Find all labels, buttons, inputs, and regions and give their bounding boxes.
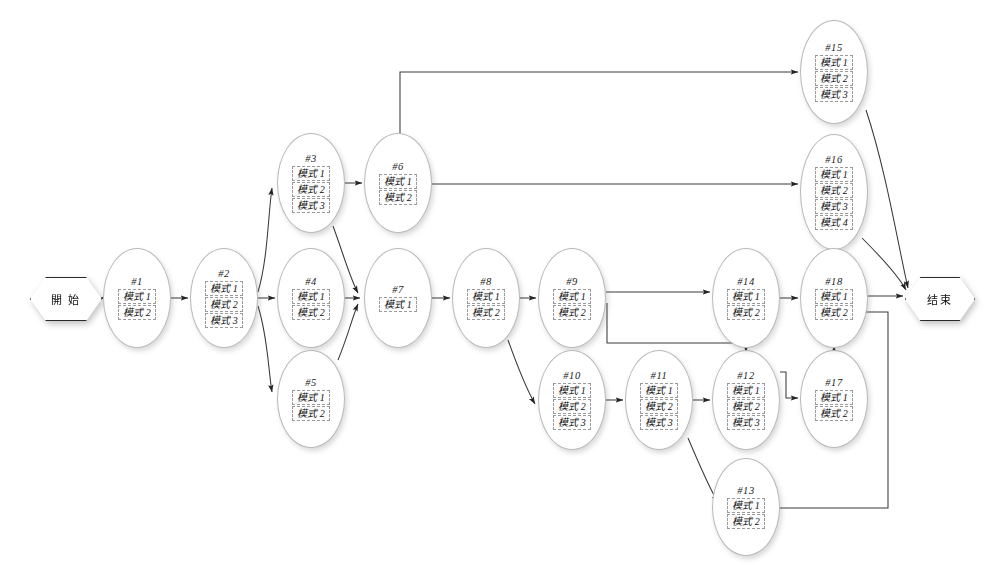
node-id-label: #9 <box>566 276 578 287</box>
mode-list: 模式 1模式 2 <box>118 289 156 320</box>
mode-item[interactable]: 模式 3 <box>205 313 243 328</box>
node-id-label: #2 <box>218 268 230 279</box>
mode-item[interactable]: 模式 1 <box>727 498 765 513</box>
process-node[interactable]: #12模式 1模式 2模式 3 <box>712 350 780 450</box>
process-node[interactable]: #4模式 1模式 2 <box>277 248 345 348</box>
mode-list: 模式 1模式 2模式 3模式 4 <box>815 167 853 230</box>
mode-item[interactable]: 模式 2 <box>467 305 505 320</box>
mode-list: 模式 1模式 2 <box>292 390 330 421</box>
end-terminator[interactable]: 结束 <box>905 277 975 321</box>
mode-item[interactable]: 模式 2 <box>815 305 853 320</box>
mode-item[interactable]: 模式 2 <box>205 297 243 312</box>
node-id-label: #15 <box>825 42 843 53</box>
mode-list: 模式 1模式 2模式 3 <box>553 383 591 430</box>
process-node[interactable]: #3模式 1模式 2模式 3 <box>277 133 345 233</box>
node-id-label: #7 <box>392 284 404 295</box>
mode-item[interactable]: 模式 1 <box>553 289 591 304</box>
process-node[interactable]: #7模式 1 <box>364 248 432 348</box>
process-node[interactable]: #15模式 1模式 2模式 3 <box>800 20 868 124</box>
process-node[interactable]: #18模式 1模式 2 <box>800 248 868 348</box>
node-id-label: #16 <box>825 154 843 165</box>
mode-item[interactable]: 模式 3 <box>640 415 678 430</box>
mode-item[interactable]: 模式 3 <box>815 199 853 214</box>
mode-item[interactable]: 模式 2 <box>815 183 853 198</box>
process-node[interactable]: #5模式 1模式 2 <box>277 350 345 448</box>
flowchart-canvas: 開 始 结束 #1模式 1模式 2#2模式 1模式 2模式 3#3模式 1模式 … <box>0 0 992 586</box>
mode-item[interactable]: 模式 2 <box>727 305 765 320</box>
mode-item[interactable]: 模式 1 <box>292 166 330 181</box>
node-id-label: #8 <box>480 276 492 287</box>
node-id-label: #12 <box>737 370 755 381</box>
node-id-label: #11 <box>651 370 668 381</box>
node-id-label: #4 <box>305 276 317 287</box>
node-id-label: #10 <box>563 370 581 381</box>
node-id-label: #14 <box>737 276 755 287</box>
mode-item[interactable]: 模式 1 <box>815 55 853 70</box>
mode-item[interactable]: 模式 2 <box>292 406 330 421</box>
mode-item[interactable]: 模式 1 <box>118 289 156 304</box>
mode-item[interactable]: 模式 1 <box>815 167 853 182</box>
mode-list: 模式 1模式 2 <box>379 174 417 205</box>
mode-list: 模式 1模式 2 <box>815 390 853 421</box>
node-id-label: #1 <box>131 276 143 287</box>
mode-list: 模式 1模式 2 <box>467 289 505 320</box>
process-node[interactable]: #9模式 1模式 2 <box>538 248 606 348</box>
process-node[interactable]: #13模式 1模式 2 <box>712 458 780 556</box>
mode-item[interactable]: 模式 1 <box>640 383 678 398</box>
mode-list: 模式 1模式 2 <box>727 498 765 529</box>
mode-list: 模式 1模式 2模式 3 <box>205 281 243 328</box>
mode-item[interactable]: 模式 1 <box>205 281 243 296</box>
mode-list: 模式 1模式 2 <box>292 289 330 320</box>
mode-item[interactable]: 模式 2 <box>727 399 765 414</box>
mode-item[interactable]: 模式 3 <box>553 415 591 430</box>
mode-item[interactable]: 模式 2 <box>553 399 591 414</box>
process-node[interactable]: #10模式 1模式 2模式 3 <box>538 350 606 450</box>
mode-item[interactable]: 模式 1 <box>815 390 853 405</box>
mode-list: 模式 1模式 2模式 3 <box>815 55 853 102</box>
mode-item[interactable]: 模式 1 <box>553 383 591 398</box>
process-node[interactable]: #8模式 1模式 2 <box>452 248 520 348</box>
mode-list: 模式 1模式 2模式 3 <box>727 383 765 430</box>
start-terminator[interactable]: 開 始 <box>30 277 102 321</box>
mode-item[interactable]: 模式 2 <box>379 190 417 205</box>
mode-item[interactable]: 模式 2 <box>815 71 853 86</box>
mode-item[interactable]: 模式 2 <box>292 305 330 320</box>
mode-list: 模式 1模式 2 <box>553 289 591 320</box>
process-node[interactable]: #16模式 1模式 2模式 3模式 4 <box>800 134 868 250</box>
end-terminator-label: 结束 <box>927 291 953 307</box>
node-id-label: #17 <box>825 377 843 388</box>
start-terminator-label: 開 始 <box>51 291 82 307</box>
process-node[interactable]: #6模式 1模式 2 <box>364 133 432 233</box>
node-id-label: #3 <box>305 153 317 164</box>
mode-item[interactable]: 模式 2 <box>727 514 765 529</box>
mode-item[interactable]: 模式 1 <box>727 383 765 398</box>
mode-item[interactable]: 模式 3 <box>292 198 330 213</box>
mode-item[interactable]: 模式 1 <box>379 297 417 312</box>
process-node[interactable]: #17模式 1模式 2 <box>800 350 868 448</box>
mode-item[interactable]: 模式 2 <box>640 399 678 414</box>
process-node[interactable]: #1模式 1模式 2 <box>103 248 171 348</box>
mode-item[interactable]: 模式 4 <box>815 215 853 230</box>
mode-item[interactable]: 模式 2 <box>292 182 330 197</box>
mode-item[interactable]: 模式 1 <box>379 174 417 189</box>
mode-item[interactable]: 模式 1 <box>727 289 765 304</box>
mode-item[interactable]: 模式 3 <box>727 415 765 430</box>
process-node[interactable]: #11模式 1模式 2模式 3 <box>625 350 693 450</box>
mode-list: 模式 1模式 2模式 3 <box>640 383 678 430</box>
mode-list: 模式 1 <box>379 297 417 312</box>
mode-list: 模式 1模式 2 <box>815 289 853 320</box>
mode-item[interactable]: 模式 2 <box>553 305 591 320</box>
mode-list: 模式 1模式 2模式 3 <box>292 166 330 213</box>
node-id-label: #13 <box>737 485 755 496</box>
mode-item[interactable]: 模式 1 <box>292 289 330 304</box>
mode-item[interactable]: 模式 1 <box>815 289 853 304</box>
node-id-label: #6 <box>392 161 404 172</box>
process-node[interactable]: #2模式 1模式 2模式 3 <box>190 248 258 348</box>
mode-item[interactable]: 模式 2 <box>815 406 853 421</box>
mode-item[interactable]: 模式 3 <box>815 87 853 102</box>
mode-item[interactable]: 模式 1 <box>292 390 330 405</box>
mode-item[interactable]: 模式 1 <box>467 289 505 304</box>
node-id-label: #5 <box>305 377 317 388</box>
process-node[interactable]: #14模式 1模式 2 <box>712 248 780 348</box>
mode-item[interactable]: 模式 2 <box>118 305 156 320</box>
